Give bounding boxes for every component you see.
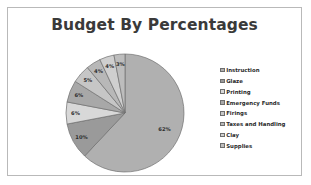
pie-slice-label: 4% — [94, 68, 103, 74]
pie-chart[interactable]: 62%10%6%6%5%4%4%3% — [64, 52, 186, 174]
legend-item-label: Emergency Funds — [226, 100, 280, 106]
pie-slice-label: 62% — [158, 126, 170, 132]
legend-swatch-icon — [220, 111, 225, 116]
pie-slice-label: 5% — [83, 77, 92, 83]
legend-item-label: Glaze — [226, 78, 243, 84]
legend-swatch-icon — [220, 89, 225, 94]
legend-swatch-icon — [220, 122, 225, 127]
pie-slice-label: 4% — [105, 63, 114, 69]
pie-slice-group — [66, 54, 184, 172]
legend-item-label: Firings — [226, 110, 247, 116]
legend-swatch-icon — [220, 79, 225, 84]
legend-item[interactable]: Firings — [220, 108, 311, 118]
legend-item-label: Printing — [226, 89, 250, 95]
pie-svg — [64, 52, 186, 174]
legend-item[interactable]: Taxes and Handling — [220, 119, 311, 129]
legend-swatch-icon — [220, 100, 225, 105]
legend-item[interactable]: Printing — [220, 87, 311, 97]
pie-slice-label: 3% — [116, 61, 125, 67]
pie-slice-label: 10% — [75, 134, 87, 140]
legend-item-label: Taxes and Handling — [226, 121, 285, 127]
pie-slice-label: 6% — [71, 110, 80, 116]
legend-item-label: Supplies — [226, 143, 252, 149]
legend-swatch-icon — [220, 143, 225, 148]
legend-item[interactable]: Clay — [220, 130, 311, 140]
legend-item[interactable]: Emergency Funds — [220, 97, 311, 107]
legend-item[interactable]: Glaze — [220, 76, 311, 86]
chart-title: Budget By Percentages — [8, 16, 301, 34]
pie-slice-label: 6% — [75, 92, 84, 98]
legend-swatch-icon — [220, 68, 225, 73]
chart-frame: Budget By Percentages 62%10%6%6%5%4%4%3%… — [7, 7, 302, 176]
legend-item-label: Instruction — [226, 67, 259, 73]
legend-item[interactable]: Supplies — [220, 140, 311, 150]
legend-swatch-icon — [220, 133, 225, 138]
legend-item[interactable]: Instruction — [220, 65, 311, 75]
legend-item-label: Clay — [226, 132, 239, 138]
chart-legend: InstructionGlazePrintingEmergency FundsF… — [220, 65, 311, 151]
